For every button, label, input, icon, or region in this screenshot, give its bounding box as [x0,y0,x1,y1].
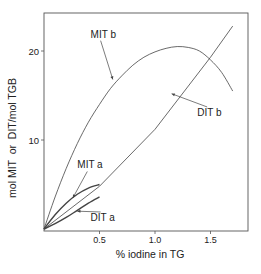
arrowhead-icon [110,76,113,79]
x-tick-label: 0.5 [93,235,106,245]
annotation-dit-a: DIT a [91,212,116,223]
annotation-dit-b: DIT b [197,107,222,118]
plot-frame [44,13,248,231]
x-axis-label: % iodine in TG [116,248,185,260]
annotation-mit-b: MIT b [91,29,117,40]
x-tick-label: 1.0 [149,235,162,245]
y-axis-label: mol MIT or DIT/mol TGB [6,78,18,198]
x-tick-label: 1.5 [204,235,217,245]
y-tick-label: 10 [28,135,39,146]
curve-mit-b [44,47,233,229]
plot-border [44,13,248,231]
annotation-mit-a: MIT a [77,159,103,170]
data-curves [44,26,233,229]
y-tick-label: 20 [28,46,39,57]
curve-annotations: MIT bDIT bMIT aDIT a [73,29,222,223]
annotation-arrow [101,41,113,80]
annotation-arrow [73,171,87,197]
chart: 0.51.01.51020 MIT bDIT bMIT aDIT a % iod… [0,0,261,274]
